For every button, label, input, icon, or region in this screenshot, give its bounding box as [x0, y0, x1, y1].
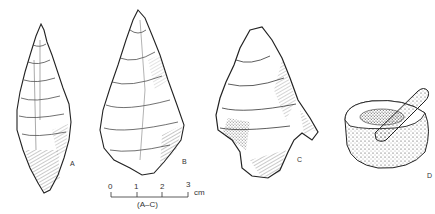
artifact-a-point [17, 24, 71, 193]
scale-tick-3: 3 [186, 180, 190, 189]
label-b: B [182, 158, 187, 165]
scale-tick-2: 2 [160, 182, 164, 191]
artifact-c-point [216, 27, 318, 178]
artifact-d-mortar-pestle [345, 89, 429, 169]
illustration-canvas [0, 0, 435, 214]
scale-unit: cm [194, 188, 205, 197]
artifact-b-biface [100, 10, 184, 175]
label-a: A [70, 160, 75, 167]
scale-bar [111, 192, 188, 197]
scale-tick-0: 0 [108, 182, 112, 191]
label-c: C [297, 156, 302, 163]
scale-applies-to: (A–C) [137, 200, 158, 209]
label-d: D [427, 172, 432, 179]
scale-tick-1: 1 [134, 182, 138, 191]
